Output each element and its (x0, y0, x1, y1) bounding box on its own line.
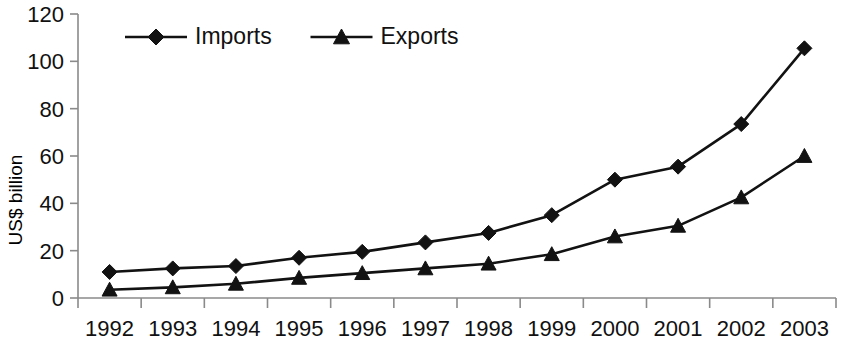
x-tick-label: 1992 (85, 316, 134, 341)
triangle-data-point-marker (671, 218, 686, 232)
diamond-data-point-marker (292, 250, 307, 265)
diamond-data-point-marker (481, 225, 496, 240)
x-tick-label: 2000 (590, 316, 639, 341)
x-tick-label: 1999 (527, 316, 576, 341)
series-line (110, 156, 805, 290)
y-tick-label: 20 (40, 239, 64, 264)
chart-legend: ImportsExports (125, 23, 458, 49)
y-tick-label: 100 (27, 49, 64, 74)
data-series-layer (102, 41, 812, 296)
x-axis-tick-labels: 1992199319941995199619971998199920002001… (85, 316, 829, 341)
x-tick-label: 1995 (275, 316, 324, 341)
series-imports (102, 41, 812, 280)
y-axis-title: US$ billion (5, 155, 26, 246)
series-exports (102, 149, 812, 297)
y-tick-label: 40 (40, 191, 64, 216)
x-tick-label: 2003 (780, 316, 829, 341)
y-axis-title-text: US$ billion (5, 155, 26, 246)
diamond-data-point-marker (165, 261, 180, 276)
legend-label: Imports (195, 23, 272, 49)
x-axis: 1992199319941995199619971998199920002001… (78, 298, 836, 341)
x-axis-ticks (78, 298, 836, 308)
diamond-marker-icon (148, 29, 164, 45)
x-tick-label: 1993 (148, 316, 197, 341)
line-chart: US$ billion 020406080100120 199219931994… (0, 0, 842, 348)
diamond-data-point-marker (418, 235, 433, 250)
legend-item-exports[interactable]: Exports (311, 23, 459, 49)
diamond-data-point-marker (671, 159, 686, 174)
y-axis: 020406080100120 (27, 2, 78, 311)
legend-item-imports[interactable]: Imports (125, 23, 272, 49)
diamond-data-point-marker (102, 264, 117, 279)
y-tick-label: 120 (27, 2, 64, 27)
y-tick-label: 0 (52, 286, 64, 311)
legend-label: Exports (381, 23, 459, 49)
y-tick-label: 60 (40, 144, 64, 169)
y-tick-label: 80 (40, 97, 64, 122)
diamond-data-point-marker (355, 244, 370, 259)
chart-canvas: US$ billion 020406080100120 199219931994… (0, 0, 842, 348)
x-tick-label: 1996 (338, 316, 387, 341)
x-tick-label: 1998 (464, 316, 513, 341)
y-axis-ticks (70, 14, 78, 298)
diamond-data-point-marker (228, 259, 243, 274)
triangle-data-point-marker (734, 190, 749, 204)
diamond-data-point-marker (544, 208, 559, 223)
x-tick-label: 2001 (654, 316, 703, 341)
x-tick-label: 1994 (211, 316, 260, 341)
x-tick-label: 2002 (717, 316, 766, 341)
x-tick-label: 1997 (401, 316, 450, 341)
y-axis-tick-labels: 020406080100120 (27, 2, 64, 311)
triangle-data-point-marker (797, 149, 812, 163)
diamond-data-point-marker (607, 172, 622, 187)
series-line (110, 48, 805, 272)
